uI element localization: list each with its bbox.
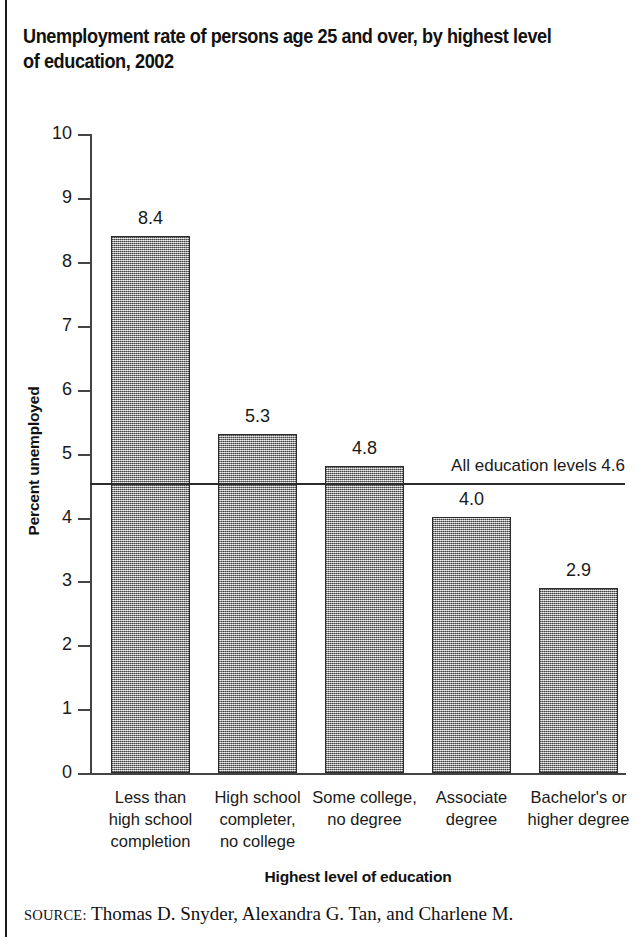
x-category-label-5-line-1: Bachelor's or [521, 786, 636, 808]
bar-value-2: 5.3 [218, 406, 297, 427]
source-text: Thomas D. Snyder, Alexandra G. Tan, and … [87, 903, 514, 924]
bar-value-5: 2.9 [539, 560, 618, 581]
y-tick-label-0: 0 [26, 762, 72, 783]
x-category-label-3-line-2: no degree [309, 808, 420, 830]
bar-less-than-high-school [111, 236, 190, 773]
y-tick-label-1: 1 [26, 698, 72, 719]
x-category-label-1: Less than high school completion [96, 786, 205, 852]
x-category-label-3: Some college, no degree [309, 786, 420, 830]
x-category-label-3-line-1: Some college, [309, 786, 420, 808]
x-category-label-4-line-2: degree [424, 808, 519, 830]
bar-value-1: 8.4 [111, 208, 190, 229]
source-note: SOURCE: Thomas D. Snyder, Alexandra G. T… [24, 903, 624, 925]
y-tick-label-10: 10 [26, 123, 72, 144]
y-tick-label-7: 7 [26, 315, 72, 336]
bar-value-4: 4.0 [432, 489, 511, 510]
y-tick-label-9: 9 [26, 187, 72, 208]
bar-value-3: 4.8 [325, 438, 404, 459]
y-tick-label-8: 8 [26, 251, 72, 272]
y-tick-label-3: 3 [26, 570, 72, 591]
x-category-label-4-line-1: Associate [424, 786, 519, 808]
chart-plot-area: 10 9 8 7 6 5 4 3 2 1 0 Percent unemploye… [0, 0, 637, 937]
y-axis-title: Percent unemployed [25, 366, 43, 556]
bar-some-college-no-degree [325, 466, 404, 773]
reference-line-label: All education levels 4.6 [451, 456, 625, 476]
reference-line-all-education-levels [90, 483, 625, 485]
x-category-label-5-line-2: higher degree [521, 808, 636, 830]
x-category-label-2: High school completer, no college [204, 786, 311, 852]
x-axis-line [90, 773, 626, 775]
x-category-label-5: Bachelor's or higher degree [521, 786, 636, 830]
y-tick-label-2: 2 [26, 634, 72, 655]
x-category-label-2-line-1: High school [204, 786, 311, 808]
x-axis-title: Highest level of education [90, 868, 626, 886]
x-category-label-1-line-1: Less than [96, 786, 205, 808]
x-category-label-2-line-2: completer, [204, 808, 311, 830]
bar-high-school-completer [218, 434, 297, 773]
bar-associate-degree [432, 517, 511, 773]
x-category-label-1-line-2: high school [96, 808, 205, 830]
source-label: SOURCE: [24, 907, 87, 923]
x-category-label-2-line-3: no college [204, 830, 311, 852]
y-axis-line [90, 134, 92, 774]
x-category-label-4: Associate degree [424, 786, 519, 830]
bar-bachelors-or-higher [539, 588, 618, 773]
x-category-label-1-line-3: completion [96, 830, 205, 852]
